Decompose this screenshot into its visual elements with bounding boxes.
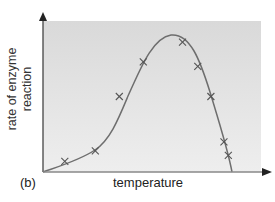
plot-area xyxy=(43,21,261,172)
chart-canvas xyxy=(0,0,275,202)
panel-label: (b) xyxy=(20,175,36,190)
y-axis-label: rate of enzyme reaction xyxy=(3,24,37,154)
y-axis-label-line-1: rate of enzyme xyxy=(5,48,20,131)
x-axis-arrow-icon xyxy=(262,168,272,176)
y-axis-label-line-2: reaction xyxy=(20,48,35,131)
x-axis-label: temperature xyxy=(113,175,183,190)
y-axis-arrow-icon xyxy=(39,12,47,21)
